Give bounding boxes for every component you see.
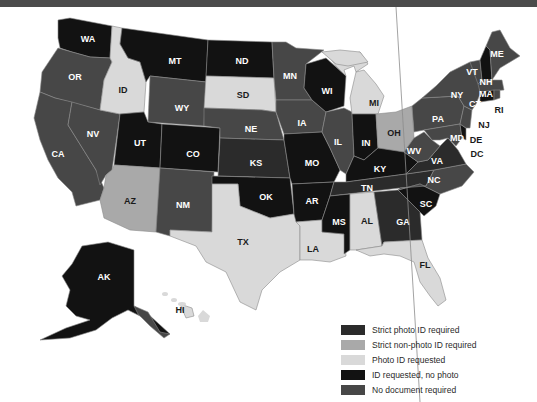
label-ak: AK [98,272,111,282]
label-wi: WI [322,86,333,96]
label-al: AL [361,216,373,226]
label-ks: KS [250,158,263,168]
label-de: DE [470,135,483,145]
label-ky: KY [374,164,387,174]
legend-item-photo-requested: Photo ID requested [341,352,476,367]
label-pa: PA [432,114,444,124]
label-nm: NM [176,200,190,210]
label-ny: NY [451,90,464,100]
label-md: MD [450,133,464,143]
state-fl[interactable] [356,240,446,306]
label-vt: VT [466,67,478,77]
label-ia: IA [298,118,308,128]
label-co: CO [186,149,200,159]
label-dc: DC [471,149,484,159]
legend-label: Strict photo ID required [372,325,459,335]
legend-label: Photo ID requested [372,355,445,365]
label-ut: UT [134,138,146,148]
state-co[interactable] [160,124,220,172]
label-or: OR [68,72,82,82]
label-mi: MI [369,98,379,108]
legend-item-id-no-photo: ID requested, no photo [341,367,476,382]
label-in: IN [362,138,371,148]
label-wv: WV [407,146,422,156]
legend-item-strict-nonphoto: Strict non-photo ID required [341,337,476,352]
label-sd: SD [237,90,250,100]
label-me: ME [490,49,504,59]
legend-label: ID requested, no photo [372,370,458,380]
label-tx: TX [237,237,249,247]
legend-item-strict-photo: Strict photo ID required [341,322,476,337]
swatch-no-document [341,385,365,395]
swatch-photo-requested [341,355,365,365]
label-ct: CT [469,99,481,109]
label-nc: NC [428,175,441,185]
label-nv: NV [87,129,100,139]
label-wy: WY [175,103,190,113]
legend: Strict photo ID required Strict non-phot… [341,322,476,397]
label-mo: MO [305,158,320,168]
state-hi-big-island[interactable] [198,310,210,322]
label-fl: FL [420,260,431,270]
state-ak-panhandle[interactable] [134,306,170,338]
label-wa: WA [81,34,96,44]
label-nd: ND [236,56,249,66]
label-id: ID [119,85,129,95]
label-ar: AR [306,196,319,206]
label-ok: OK [259,192,273,202]
state-hi-island1[interactable] [162,292,168,296]
label-nh: NH [480,77,493,87]
label-nj: NJ [478,120,490,130]
label-la: LA [307,244,319,254]
label-ma: MA [479,89,493,99]
label-mn: MN [283,71,297,81]
label-ms: MS [332,217,346,227]
label-ga: GA [396,217,410,227]
label-hi: HI [176,305,185,315]
label-mt: MT [169,56,182,66]
label-ri: RI [495,105,504,115]
label-ne: NE [245,124,258,134]
legend-label: Strict non-photo ID required [372,340,476,350]
legend-item-no-document: No document required [341,382,476,397]
label-va: VA [431,156,443,166]
label-az: AZ [124,196,136,206]
state-wy[interactable] [148,76,206,126]
state-hi-island2[interactable] [171,298,177,302]
legend-label: No document required [372,385,456,395]
label-sc: SC [420,199,433,209]
label-il: IL [334,137,343,147]
swatch-id-no-photo [341,370,365,380]
state-ri[interactable] [494,90,500,100]
swatch-strict-nonphoto [341,340,365,350]
swatch-strict-photo [341,325,365,335]
label-oh: OH [387,128,401,138]
label-ca: CA [52,149,65,159]
label-tn: TN [361,183,373,193]
